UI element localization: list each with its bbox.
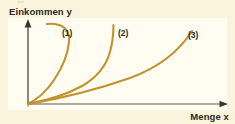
y-axis-arrow-icon — [25, 19, 32, 28]
curve-3-label: (3) — [188, 30, 198, 40]
curve-1-label: (1) — [62, 28, 72, 38]
economics-diagram: Einkommen y Menge x (1) (2) (3) — [0, 0, 235, 124]
curve-2-label: (2) — [118, 28, 128, 38]
curve-3-path — [28, 31, 192, 104]
x-axis-label: Menge x — [190, 111, 229, 122]
x-axis-arrow-icon — [220, 101, 229, 107]
y-axis-label: Einkommen y — [9, 6, 72, 17]
chart-canvas — [0, 0, 235, 124]
